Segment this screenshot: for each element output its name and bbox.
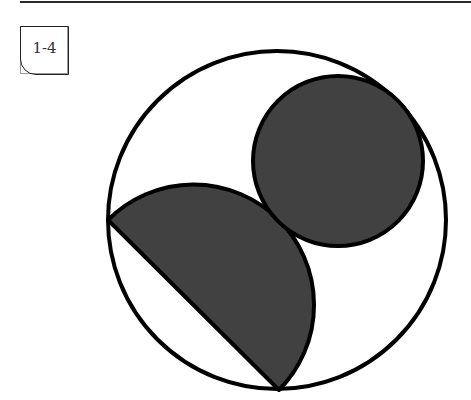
shaded-small-circle xyxy=(253,76,423,246)
geometry-figure xyxy=(0,0,471,400)
